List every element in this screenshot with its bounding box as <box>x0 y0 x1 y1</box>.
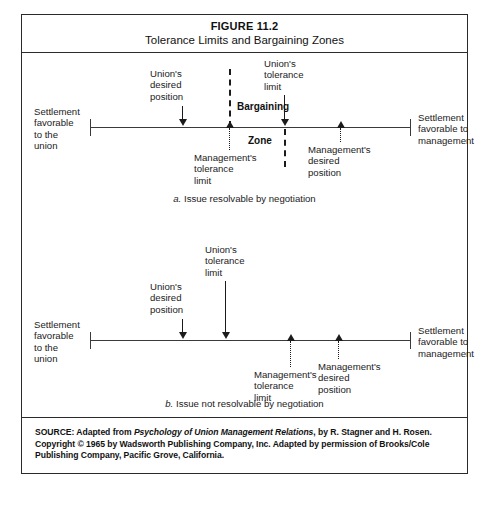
marker-arrowhead-mgmt-tolerance-b <box>287 334 295 341</box>
zone-label-top-a: Bargaining <box>237 101 289 112</box>
marker-label-mgmt-tolerance-a: Management's tolerance limit <box>194 152 278 186</box>
zone-boundary-left-a <box>229 69 231 127</box>
marker-label-union-desired-a: Union's desired position <box>150 68 212 102</box>
marker-stem-mgmt-desired-b <box>338 341 339 359</box>
marker-label-union-tolerance-b: Union's tolerance limit <box>205 244 267 278</box>
axis-label-right-b: Settlement favorable to management <box>418 325 487 359</box>
axis-label-left-b: Settlement favorable to the union <box>34 319 92 365</box>
figure-header: FIGURE 11.2 Tolerance Limits and Bargain… <box>22 15 467 53</box>
zone-label-bottom-a: Zone <box>248 135 272 146</box>
figure-number: FIGURE 11.2 <box>22 20 467 32</box>
figure-container: FIGURE 11.2 Tolerance Limits and Bargain… <box>21 14 468 474</box>
axis-label-right-a: Settlement favorable to management <box>418 112 487 146</box>
panel-caption-text-b: Issue not resolvable by negotiation <box>173 398 323 409</box>
marker-label-mgmt-desired-a: Management's desired position <box>308 144 392 178</box>
marker-label-union-tolerance-a: Union's tolerance limit <box>264 58 326 92</box>
panel-caption-text-a: Issue resolvable by negotiation <box>181 193 315 204</box>
zone-boundary-right-a <box>284 129 286 167</box>
marker-stem-mgmt-tolerance-a <box>229 128 230 150</box>
marker-label-union-desired-b: Union's desired position <box>150 281 212 315</box>
marker-arrowhead-mgmt-tolerance-a <box>226 121 234 128</box>
source-prefix: SOURCE: Adapted from <box>35 427 134 437</box>
marker-arrowhead-mgmt-desired-b <box>335 334 343 341</box>
source-note: SOURCE: Adapted from Psychology of Union… <box>22 417 467 473</box>
marker-arrowhead-mgmt-desired-a <box>337 121 345 128</box>
marker-stem-mgmt-tolerance-b <box>290 341 291 367</box>
marker-stem-mgmt-desired-a <box>340 128 341 142</box>
marker-stem-union-desired-b <box>182 319 183 333</box>
marker-stem-union-tolerance-b <box>225 281 226 333</box>
diagram-panel-a: Settlement favorable to the union Settle… <box>22 53 467 236</box>
source-text: SOURCE: Adapted from Psychology of Union… <box>35 427 454 462</box>
marker-arrowhead-union-tolerance-a <box>281 119 289 126</box>
axis-right-endcap-b <box>410 332 411 349</box>
marker-arrowhead-union-desired-b <box>179 332 187 339</box>
axis-label-left-a: Settlement favorable to the union <box>34 106 92 152</box>
figure-title: Tolerance Limits and Bargaining Zones <box>22 34 467 46</box>
axis-line-b <box>90 340 410 341</box>
marker-arrowhead-union-tolerance-b <box>222 332 230 339</box>
marker-arrowhead-union-desired-a <box>179 119 187 126</box>
marker-stem-union-desired-a <box>182 106 183 120</box>
source-work-title: Psychology of Union Management Relations <box>134 427 313 437</box>
marker-label-mgmt-desired-b: Management's desired position <box>318 361 392 395</box>
panel-caption-a: a. Issue resolvable by negotiation <box>22 193 467 204</box>
diagram-panel-b: Settlement favorable to the union Settle… <box>22 236 467 419</box>
axis-right-endcap-a <box>410 119 411 136</box>
panel-caption-b: b. Issue not resolvable by negotiation <box>22 398 467 409</box>
axis-line-a <box>90 127 410 128</box>
